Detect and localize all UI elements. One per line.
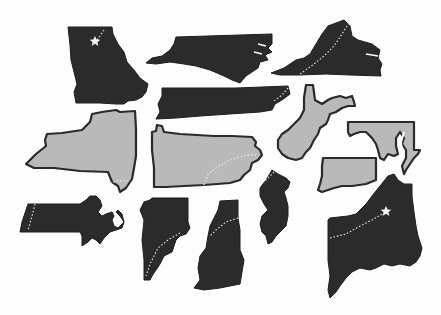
state-georgia	[68, 27, 148, 104]
state-north-carolina	[146, 34, 272, 83]
state-connecticut	[318, 158, 376, 192]
state-maine	[328, 174, 422, 298]
states-illustration	[0, 0, 441, 315]
state-new-jersey	[260, 170, 290, 244]
state-tennessee	[156, 86, 290, 119]
state-new-york	[26, 110, 136, 192]
state-pennsylvania	[152, 125, 262, 187]
state-silhouettes	[0, 0, 441, 315]
state-massachusetts	[20, 196, 124, 246]
state-new-hampshire	[194, 200, 244, 290]
state-west-virginia	[278, 85, 355, 160]
state-vermont	[140, 198, 190, 280]
state-virginia	[271, 20, 382, 76]
